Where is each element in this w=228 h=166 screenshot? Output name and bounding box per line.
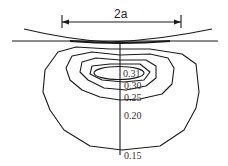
- dimension-2a: 2a: [62, 7, 181, 28]
- arrowhead-left: [62, 20, 69, 25]
- contact-stress-diagram: 2a 0.31 0.30 0.25 0.20 0.15: [0, 0, 228, 166]
- contour-label-0-25: 0.25: [124, 92, 142, 103]
- contour-label-0-30: 0.30: [124, 80, 142, 91]
- contour-0-25: [80, 58, 156, 90]
- arrowhead-right: [174, 20, 181, 25]
- curved-body: [24, 29, 212, 42]
- contour-label-0-15: 0.15: [124, 150, 142, 161]
- dimension-label: 2a: [114, 7, 128, 21]
- contour-0-15: [43, 47, 199, 150]
- contour-label-0-31: 0.31: [123, 68, 141, 79]
- contour-label-0-20: 0.20: [124, 110, 142, 121]
